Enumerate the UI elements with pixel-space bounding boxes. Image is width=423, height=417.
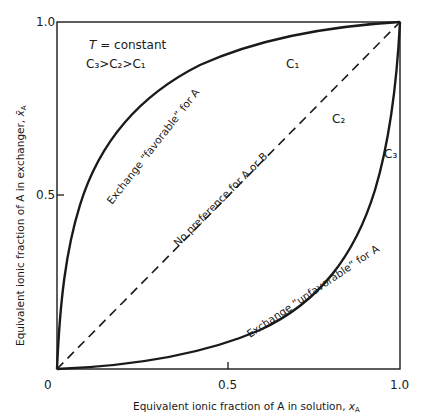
ion-exchange-isotherm-chart: T = constant C₃>C₂>C₁ C₁ C₂ C₃ Exchange … bbox=[0, 0, 423, 417]
y-axis-title: Equivalent ionic fraction of A in exchan… bbox=[14, 105, 28, 346]
x-tick-label-05: 0.5 bbox=[218, 378, 237, 392]
condition-concentration-order: C₃>C₂>C₁ bbox=[86, 57, 146, 71]
no-preference-annotation: No preference for A or B bbox=[171, 150, 270, 249]
unfavorable-annotation: Exchange “unfavorable” for A bbox=[244, 242, 381, 340]
favorable-annotation: Exchange “favorable” for A bbox=[104, 86, 202, 207]
label-c2: C₂ bbox=[332, 112, 345, 126]
y-tick-label-05: 0.5 bbox=[36, 188, 55, 202]
x-tick-label-1: 1.0 bbox=[390, 378, 409, 392]
label-c3: C₃ bbox=[384, 147, 397, 161]
condition-temperature: T = constant bbox=[89, 38, 166, 52]
y-tick-label-1: 1.0 bbox=[36, 15, 55, 29]
x-axis-title: Equivalent ionic fraction of A in soluti… bbox=[133, 400, 360, 414]
x-tick-label-0: 0 bbox=[44, 378, 52, 392]
label-c1: C₁ bbox=[286, 57, 299, 71]
